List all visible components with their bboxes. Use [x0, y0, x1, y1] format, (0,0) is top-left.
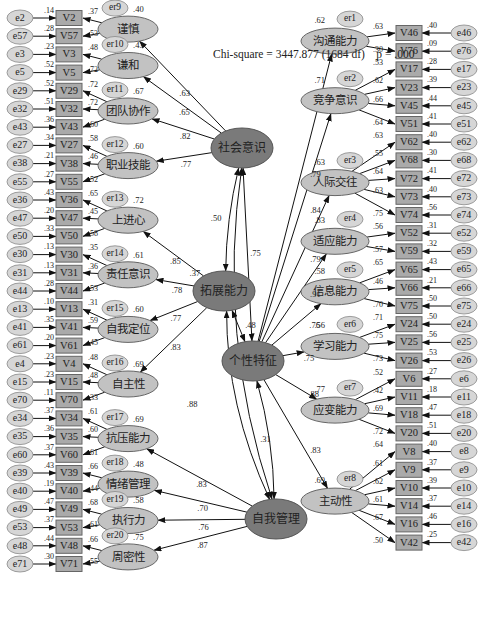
loading-value: .31 — [88, 298, 98, 307]
error-label: e5 — [15, 66, 24, 77]
correlation-arrow — [232, 310, 245, 341]
factor-r-squared: .58 — [314, 266, 325, 276]
error-label: e47 — [13, 212, 27, 223]
structural-coefficient: .84 — [310, 205, 321, 215]
correlation-value: .31 — [260, 434, 271, 444]
loading-value: .42 — [373, 386, 383, 395]
factor-label: 自我定位 — [106, 322, 150, 335]
r-squared-value: .37 — [427, 494, 437, 503]
factor-r-squared: .61 — [133, 250, 144, 260]
loading-value: .48 — [88, 43, 98, 52]
error-label: e6 — [459, 373, 468, 384]
error-label: e35 — [13, 430, 27, 441]
error-label: e46 — [457, 27, 471, 38]
factor-r-squared: .63 — [314, 157, 325, 167]
structural-path — [283, 352, 304, 356]
loading-value: .52 — [88, 175, 98, 184]
factor-label: 竞争意识 — [313, 93, 357, 106]
error-label: e38 — [13, 157, 27, 168]
loading-arrow — [365, 88, 395, 95]
loading-value: .58 — [88, 134, 98, 143]
disturbance-label: er16 — [107, 357, 124, 367]
loading-value: .61 — [88, 407, 98, 416]
r-squared-value: .21 — [427, 276, 437, 285]
loading-value: .58 — [88, 229, 98, 238]
loading-arrow — [83, 218, 98, 219]
loading-value: .56 — [373, 222, 383, 231]
r-squared-value: .28 — [44, 24, 54, 33]
loading-value: .66 — [373, 95, 383, 104]
loading-arrow — [83, 437, 98, 438]
r-squared-value: .40 — [427, 130, 437, 139]
r-squared-value: .37 — [427, 458, 437, 467]
second-order-label: 个性特征 — [229, 353, 277, 368]
observed-label: V51 — [400, 118, 418, 129]
loading-arrow — [368, 103, 395, 105]
r-squared-value: .33 — [44, 224, 54, 233]
structural-coefficient: .85 — [170, 256, 181, 266]
error-label: e43 — [13, 121, 27, 132]
observed-label: V31 — [60, 267, 78, 278]
loading-arrow — [83, 54, 102, 59]
loading-value: .61 — [88, 448, 98, 457]
r-squared-value: .52 — [44, 60, 54, 69]
error-label: e10 — [457, 482, 471, 493]
observed-label: V16 — [400, 518, 418, 529]
structural-coefficient: .83 — [170, 342, 181, 352]
observed-label: V75 — [400, 300, 418, 311]
observed-label: V42 — [400, 537, 418, 548]
observed-label: V11 — [400, 391, 418, 402]
factor-label: 自主性 — [112, 377, 145, 390]
observed-label: V26 — [400, 355, 418, 366]
loading-value: .64 — [373, 118, 383, 127]
r-squared-value: .43 — [44, 461, 54, 470]
disturbance-label: er15 — [107, 303, 124, 313]
r-squared-value: .13 — [44, 242, 54, 251]
loading-value: .72 — [88, 80, 98, 89]
error-label: e75 — [457, 300, 471, 311]
r-squared-value: .50 — [427, 294, 437, 303]
observed-label: V24 — [400, 318, 419, 329]
loading-value: .72 — [373, 427, 383, 436]
structural-coefficient: .77 — [181, 159, 192, 169]
disturbance-label: er12 — [107, 139, 124, 149]
factor-label: 适应能力 — [313, 234, 357, 247]
r-squared-value: .27 — [427, 367, 437, 376]
loading-value: .65 — [88, 189, 98, 198]
r-squared-value: .46 — [427, 512, 437, 521]
error-label: e72 — [457, 172, 471, 183]
structural-coefficient: .65 — [179, 107, 190, 117]
error-label: e4 — [15, 358, 24, 369]
disturbance-label: er8 — [344, 473, 356, 483]
r-squared-value: .09 — [427, 39, 437, 48]
r-squared-value: .50 — [427, 312, 437, 321]
loading-value: .75 — [373, 209, 383, 218]
factor-r-squared: .83 — [314, 215, 325, 225]
error-label: e13 — [13, 303, 27, 314]
factor-r-squared: .43 — [133, 40, 144, 50]
r-squared-value: .47 — [427, 403, 437, 412]
factor-r-squared: .71 — [314, 75, 325, 85]
loading-value: .67 — [373, 513, 383, 522]
error-label: e11 — [457, 391, 471, 402]
loading-value: .52 — [373, 368, 383, 377]
structural-path — [147, 449, 253, 506]
disturbance-label: er19 — [107, 494, 124, 504]
error-label: e29 — [13, 85, 27, 96]
r-squared-value: .41 — [427, 166, 437, 175]
error-label: e45 — [457, 100, 471, 111]
error-label: e42 — [457, 536, 471, 547]
loading-value: .59 — [88, 316, 98, 325]
chi-square-text: Chi-square = 3447.877 (1684 df) — [213, 48, 365, 60]
observed-label: V45 — [400, 100, 418, 111]
structural-coefficient: .88 — [308, 389, 319, 399]
factor-r-squared: .58 — [133, 495, 144, 505]
loading-arrow — [83, 473, 102, 478]
r-squared-value: .44 — [44, 534, 54, 543]
disturbance-label: er9 — [109, 2, 121, 12]
loading-value: .61 — [88, 520, 98, 529]
observed-label: V38 — [60, 158, 78, 169]
observed-label: V53 — [60, 522, 78, 533]
r-squared-value: .20 — [44, 206, 54, 215]
disturbance-label: er10 — [107, 39, 124, 49]
